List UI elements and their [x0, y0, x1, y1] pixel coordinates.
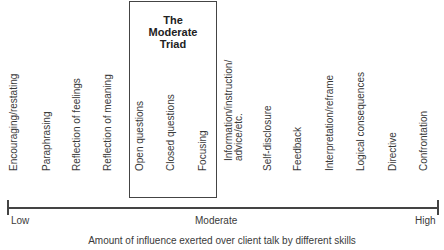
triad-title-line-1: The: [129, 14, 217, 26]
axis-tick-high: [437, 200, 439, 215]
triad-title-line-2: Moderate: [129, 26, 217, 38]
skill-label: Confrontation: [419, 111, 429, 171]
skill-label: Focusing: [198, 130, 208, 171]
skill-label: Feedback: [293, 127, 303, 171]
skill-label-line-2: advice/etc.: [234, 60, 244, 161]
axis-label-high: High: [415, 215, 436, 226]
skill-label: Open questions: [135, 101, 145, 171]
axis-label-moderate: Moderate: [195, 215, 237, 226]
axis-tick-low: [7, 200, 9, 215]
triad-title-line-3: Triad: [129, 38, 217, 50]
moderate-triad-title: The Moderate Triad: [129, 14, 217, 50]
influence-axis-line: [7, 207, 438, 209]
axis-caption: Amount of influence exerted over client …: [0, 235, 444, 246]
skill-label: Reflection of meaning: [103, 74, 113, 171]
skill-label: Closed questions: [166, 94, 176, 171]
skill-label: Self-disclosure: [263, 105, 273, 171]
skill-label: Interpretation/reframe: [325, 75, 335, 171]
skill-label: Directive: [388, 132, 398, 171]
skill-label: Encouraging/restating: [9, 74, 19, 171]
skill-label: Paraphrasing: [42, 112, 52, 171]
skill-label: Logical consequences: [356, 72, 366, 171]
skill-label: Reflection of feelings: [72, 78, 82, 171]
axis-label-low: Low: [11, 215, 29, 226]
